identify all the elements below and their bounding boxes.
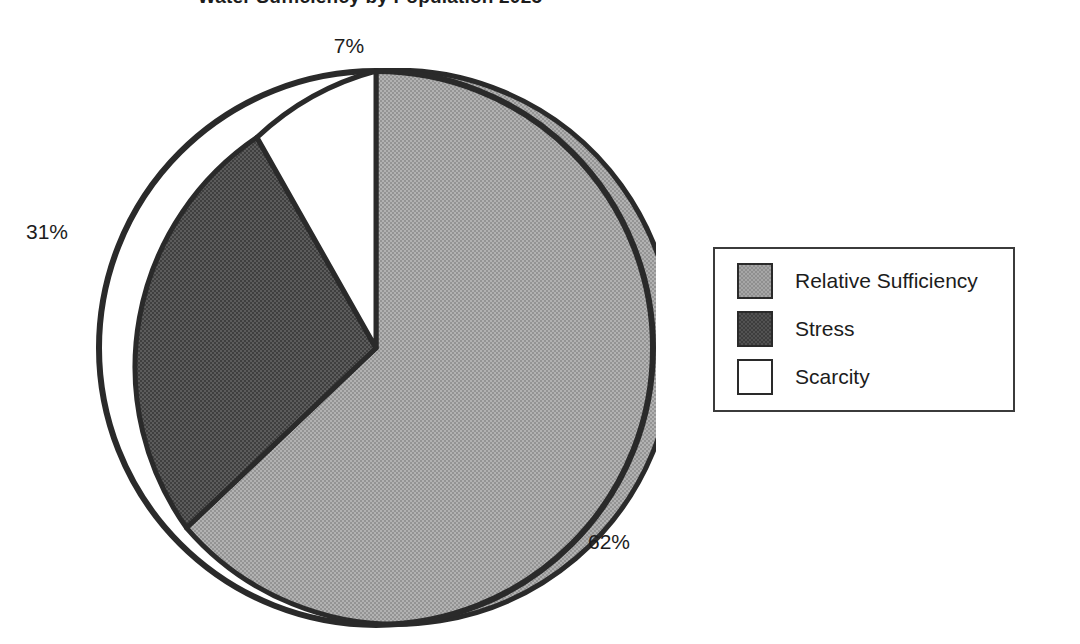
pie-label-scarcity: 7%: [306, 34, 392, 58]
legend-item-stress[interactable]: Stress: [737, 311, 855, 347]
legend-label-scarcity: Scarcity: [795, 365, 870, 389]
chart-title: Water Sufficiency by Population 2025: [0, 0, 740, 8]
light-gray-swatch-icon: [737, 263, 773, 299]
legend-item-relative-sufficiency[interactable]: Relative Sufficiency: [737, 263, 978, 299]
dark-gray-swatch-icon: [737, 311, 773, 347]
pie-svg: [96, 68, 656, 628]
legend-item-scarcity[interactable]: Scarcity: [737, 359, 870, 395]
chart-legend: Relative Sufficiency Stress Scarcity: [713, 247, 1015, 412]
pie-label-stress: 31%: [26, 220, 112, 244]
white-swatch-icon: [737, 359, 773, 395]
pie-chart-graphic: [96, 68, 656, 628]
legend-label-stress: Stress: [795, 317, 855, 341]
pie-label-relative-sufficiency: 62%: [588, 530, 680, 554]
legend-label-relative-sufficiency: Relative Sufficiency: [795, 269, 978, 293]
pie-chart-figure: Water Sufficiency by Population 2025: [0, 0, 1080, 644]
